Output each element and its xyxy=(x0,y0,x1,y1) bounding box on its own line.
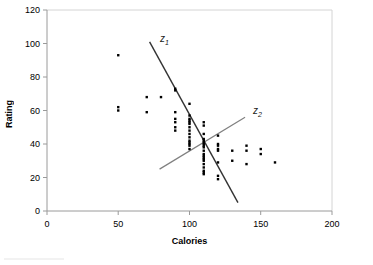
data-point xyxy=(160,96,162,98)
data-point xyxy=(203,121,205,123)
data-point xyxy=(174,89,176,91)
data-point xyxy=(188,136,190,138)
data-point xyxy=(231,150,233,152)
data-point xyxy=(217,134,219,136)
data-point xyxy=(245,150,247,152)
data-point xyxy=(203,150,205,152)
x-tick-label-100: 100 xyxy=(175,219,205,229)
y-tick-label-60: 60 xyxy=(14,106,40,116)
data-point xyxy=(117,109,119,111)
data-point xyxy=(174,129,176,131)
x-tick-label-200: 200 xyxy=(317,219,347,229)
data-point xyxy=(203,163,205,165)
data-point xyxy=(188,123,190,125)
data-point xyxy=(217,175,219,177)
z1-annotation-label: z1 xyxy=(160,33,169,46)
y-axis-ticks xyxy=(43,10,47,211)
data-point xyxy=(188,133,190,135)
page-artifact xyxy=(4,258,64,260)
z2-annotation-label: z2 xyxy=(253,105,262,118)
scatter-plot-figure: 120 100 80 60 40 20 0 0 50 100 150 200 R… xyxy=(0,0,373,265)
y-tick-label-120: 120 xyxy=(14,5,40,15)
data-point xyxy=(188,129,190,131)
data-point xyxy=(188,103,190,105)
data-point xyxy=(203,166,205,168)
z1-component-line xyxy=(150,42,238,203)
y-tick-label-100: 100 xyxy=(14,39,40,49)
data-point xyxy=(203,173,205,175)
data-point xyxy=(188,114,190,116)
data-point xyxy=(174,111,176,113)
data-point xyxy=(203,133,205,135)
data-point xyxy=(203,160,205,162)
data-point xyxy=(117,54,119,56)
data-point xyxy=(260,153,262,155)
data-point xyxy=(146,96,148,98)
data-point xyxy=(203,146,205,148)
data-point xyxy=(203,124,205,126)
x-tick-label-0: 0 xyxy=(32,219,62,229)
data-point xyxy=(245,144,247,146)
data-point xyxy=(217,144,219,146)
data-point xyxy=(260,148,262,150)
data-point xyxy=(217,150,219,152)
data-point xyxy=(231,160,233,162)
y-tick-label-20: 20 xyxy=(14,173,40,183)
data-point xyxy=(274,161,276,163)
y-tick-label-80: 80 xyxy=(14,72,40,82)
data-point xyxy=(146,111,148,113)
x-tick-label-50: 50 xyxy=(103,219,133,229)
data-point xyxy=(117,106,119,108)
data-point xyxy=(188,148,190,150)
data-point xyxy=(217,178,219,180)
data-point xyxy=(217,161,219,163)
y-tick-label-0: 0 xyxy=(14,206,40,216)
data-point xyxy=(188,144,190,146)
data-point xyxy=(245,163,247,165)
x-axis-ticks xyxy=(47,211,332,215)
y-axis-title: Rating xyxy=(2,84,16,144)
x-tick-label-150: 150 xyxy=(246,219,276,229)
data-point xyxy=(174,126,176,128)
x-axis-title: Calories xyxy=(47,236,332,246)
data-point xyxy=(174,121,176,123)
data-point xyxy=(188,126,190,128)
data-point xyxy=(174,118,176,120)
y-tick-label-40: 40 xyxy=(14,139,40,149)
